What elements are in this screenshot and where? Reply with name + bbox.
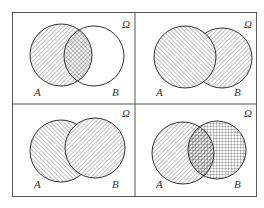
universe-label: Ω — [122, 18, 130, 30]
panel-top-right: Ω A B — [154, 18, 252, 98]
universe-label: Ω — [244, 107, 252, 119]
set-b-label: B — [234, 178, 241, 190]
venn-diagram-grid: Ω A B Ω A B Ω A B Ω A B — [0, 0, 264, 208]
set-a-label: A — [155, 86, 163, 98]
panel-top-left: Ω A B — [30, 18, 130, 98]
universe-label: Ω — [122, 107, 130, 119]
set-b-label: B — [112, 86, 119, 98]
set-b-label: B — [112, 178, 119, 190]
set-a-label: A — [33, 178, 41, 190]
panel-bottom-right: Ω A B — [152, 107, 252, 190]
set-b-label: B — [234, 86, 241, 98]
set-a-label: A — [33, 86, 41, 98]
panel-bottom-left: Ω A B — [30, 107, 130, 190]
set-a-label: A — [155, 178, 163, 190]
universe-label: Ω — [244, 18, 252, 30]
